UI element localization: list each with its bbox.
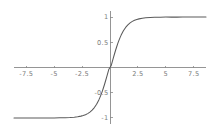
x-tick-label: 7.5 — [188, 70, 199, 78]
x-tick-label: 5 — [164, 70, 169, 78]
chart-canvas: -7.5-5-2.52.557.5 10.5-0.5-1 — [0, 0, 218, 139]
x-axis-tick-labels: -7.5-5-2.52.557.5 — [19, 70, 199, 78]
y-tick-label: -1 — [101, 114, 108, 122]
y-tick-label: -0.5 — [94, 89, 108, 97]
chart-container: -7.5-5-2.52.557.5 10.5-0.5-1 — [0, 0, 218, 139]
y-tick-label: 0.5 — [97, 39, 108, 47]
x-tick-label: 2.5 — [132, 70, 143, 78]
x-tick-label: -7.5 — [19, 70, 33, 78]
y-tick-label: 1 — [104, 13, 109, 21]
x-tick-label: -5 — [51, 70, 58, 78]
x-tick-label: -2.5 — [75, 70, 89, 78]
